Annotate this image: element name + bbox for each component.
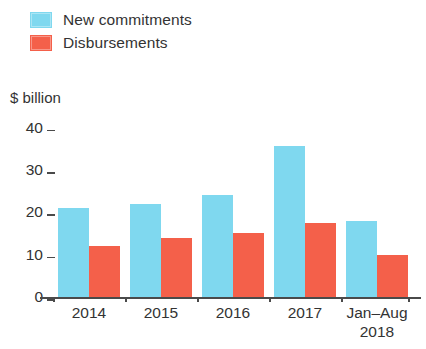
x-axis-tick-mark	[341, 297, 343, 302]
y-axis-tick-mark	[47, 257, 55, 259]
x-axis-tick-mark	[53, 297, 55, 302]
bar-disbursements	[89, 246, 120, 297]
x-axis-tick-mark	[269, 297, 271, 302]
y-axis-tick-mark	[47, 172, 55, 174]
bar-new-commitments	[58, 208, 89, 297]
x-axis-label-5: Jan–Aug2018	[322, 303, 426, 341]
x-axis-label-line: 2018	[322, 322, 426, 341]
x-axis-label-line: 2017	[288, 304, 322, 321]
y-axis-tick-label: 10	[26, 247, 43, 263]
bar-group	[130, 57, 192, 297]
bar-disbursements	[305, 223, 336, 297]
y-axis-tick-10: 10	[0, 247, 58, 263]
y-axis-tick-20: 20	[0, 204, 58, 220]
bar-new-commitments	[202, 195, 233, 297]
y-axis-tick-mark	[47, 130, 55, 132]
y-axis-tick-40: 40	[0, 119, 58, 135]
x-axis-tick-mark	[125, 297, 127, 302]
x-axis-tick-mark	[408, 297, 410, 302]
bar-disbursements	[161, 238, 192, 297]
x-axis-label-line: 2014	[72, 304, 106, 321]
bar-group	[202, 57, 264, 297]
x-axis-label-line: Jan–Aug	[346, 304, 407, 321]
bar-group	[346, 57, 408, 297]
bar-group	[58, 57, 120, 297]
y-axis-tick-30: 30	[0, 162, 58, 178]
y-axis-tick-label: 30	[26, 162, 43, 178]
chart-plot-area: 403020100 2014201520162017Jan–Aug2018	[0, 0, 426, 349]
bar-new-commitments	[274, 146, 305, 297]
x-axis-tick-mark	[197, 297, 199, 302]
y-axis-tick-label: 40	[26, 120, 43, 136]
x-axis-label-line: 2015	[144, 304, 178, 321]
x-axis-label-line: 2016	[216, 304, 250, 321]
x-axis-line	[40, 297, 421, 299]
y-axis-tick-mark	[47, 214, 55, 216]
bar-group	[274, 57, 336, 297]
bar-new-commitments	[130, 204, 161, 297]
bar-disbursements	[377, 255, 408, 297]
bar-disbursements	[233, 233, 264, 297]
bar-new-commitments	[346, 221, 377, 297]
y-axis-tick-label: 20	[26, 204, 43, 220]
